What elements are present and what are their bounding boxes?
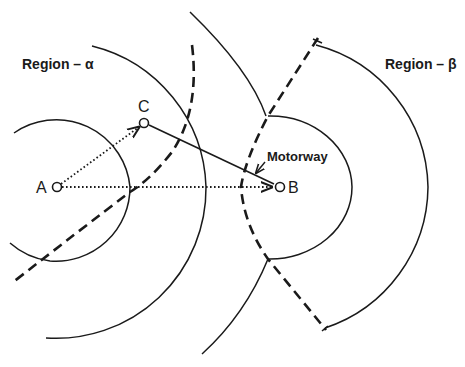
- region-alpha-label: Region – α: [22, 56, 94, 72]
- region-diagram: Region – α Region – β A B C Motorway: [0, 0, 465, 367]
- point-c-label: C: [138, 98, 150, 115]
- boundary-alpha: [12, 45, 194, 283]
- motorway-pointer: [256, 162, 265, 173]
- point-b-label: B: [288, 179, 299, 196]
- motorway-label: Motorway: [267, 149, 328, 164]
- point-a-marker: [53, 183, 62, 192]
- point-b-marker: [276, 183, 285, 192]
- isoline-a-inner: [10, 120, 130, 262]
- isoline-a-outer: [190, 12, 266, 116]
- isoline-b-outer: [316, 45, 428, 328]
- point-c-marker: [140, 119, 149, 128]
- isoline-a-outer-lower: [202, 259, 268, 354]
- isoline-a-middle: [46, 46, 206, 338]
- region-beta-label: Region – β: [385, 56, 457, 72]
- point-a-label: A: [36, 179, 47, 196]
- edge-c-to-b-motorway: [149, 125, 274, 184]
